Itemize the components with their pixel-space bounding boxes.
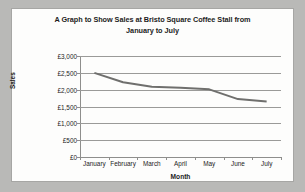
chart-panel: A Graph to Show Sales at Bristo Square C…	[11, 8, 294, 182]
x-axis-tick-label: July	[252, 160, 281, 172]
y-axis-title: Sales	[9, 72, 16, 89]
x-axis-tick-label: May	[195, 160, 224, 172]
y-axis-tick-label: £3,000	[57, 53, 77, 60]
x-axis-line	[80, 157, 281, 158]
chart-title-line-1: A Graph to Show Sales at Bristo Square C…	[26, 15, 279, 26]
x-axis-tick-label: January	[80, 160, 109, 172]
x-axis-tick-mark	[281, 157, 282, 160]
plot-area	[80, 56, 281, 157]
x-axis-tick-label: March	[137, 160, 166, 172]
y-axis-tick-label: £2,500	[57, 69, 77, 76]
chart-title-line-2: January to July	[26, 26, 279, 37]
series-line-sales	[80, 56, 281, 157]
chart-title: A Graph to Show Sales at Bristo Square C…	[26, 15, 279, 36]
y-axis-tick-labels: £3,000£2,500£2,000£1,500£1,000£500£0	[40, 56, 77, 157]
x-axis-tick-label: April	[166, 160, 195, 172]
x-axis-tick-label: February	[109, 160, 138, 172]
series-path	[94, 73, 266, 102]
y-axis-tick-label: £1,000	[57, 120, 77, 127]
y-axis-tick-label: £500	[63, 137, 77, 144]
x-axis-tick-label: June	[224, 160, 253, 172]
y-axis-tick-label: £2,000	[57, 86, 77, 93]
x-axis-title: Month	[80, 173, 281, 180]
y-axis-tick-label: £1,500	[57, 103, 77, 110]
x-axis-tick-labels: JanuaryFebruaryMarchAprilMayJuneJuly	[80, 160, 281, 172]
y-axis-tick-label: £0	[70, 154, 77, 161]
